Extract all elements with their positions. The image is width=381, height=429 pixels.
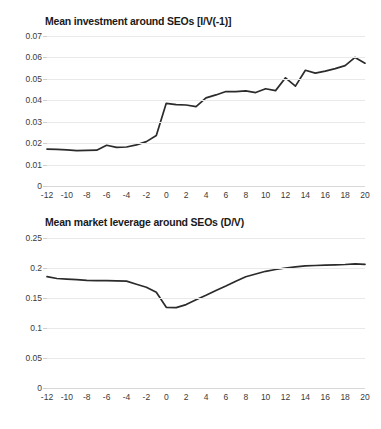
series-line-leverage <box>47 238 365 388</box>
y-tick-label: 0.06 <box>25 52 42 62</box>
x-tick-label: 16 <box>321 392 330 402</box>
gridline <box>47 36 365 37</box>
x-tick-label: 10 <box>261 392 270 402</box>
chart-title-leverage: Mean market leverage around SEOs (D/V) <box>45 216 244 228</box>
y-tick-mark <box>43 238 47 239</box>
chart-panel-leverage: Mean market leverage around SEOs (D/V) 0… <box>0 208 381 429</box>
x-tick-label: -4 <box>123 190 131 200</box>
x-tick-label: -4 <box>123 392 131 402</box>
series-line-investment <box>47 36 365 186</box>
x-tick-label: 4 <box>204 392 209 402</box>
gridline <box>47 268 365 269</box>
x-tick-label: -6 <box>103 190 111 200</box>
figure-container: Mean investment around SEOs [I/V(-1)] 00… <box>0 0 381 429</box>
x-tick-label: 20 <box>360 190 369 200</box>
y-tick-mark <box>43 165 47 166</box>
plot-area-leverage: 00.050.10.150.20.25 <box>47 238 365 388</box>
x-tick-label: 2 <box>184 190 189 200</box>
gridline <box>47 100 365 101</box>
x-tick-label: 12 <box>281 190 290 200</box>
y-tick-mark <box>43 79 47 80</box>
gridline <box>47 238 365 239</box>
y-tick-mark <box>43 328 47 329</box>
y-tick-label: 0.05 <box>25 353 42 363</box>
gridline <box>47 328 365 329</box>
x-tick-label: 2 <box>184 392 189 402</box>
x-tick-label: 8 <box>243 190 248 200</box>
y-tick-label: 0.15 <box>25 293 42 303</box>
y-tick-label: 0.01 <box>25 160 42 170</box>
y-tick-mark <box>43 143 47 144</box>
gridline <box>47 57 365 58</box>
x-tick-label: 8 <box>243 392 248 402</box>
x-tick-label: 0 <box>164 392 169 402</box>
x-tick-label: -12 <box>41 190 53 200</box>
y-tick-label: 0.04 <box>25 95 42 105</box>
y-tick-mark <box>43 298 47 299</box>
x-tick-label: -10 <box>61 392 73 402</box>
x-tick-label: 4 <box>204 190 209 200</box>
x-tick-label: -2 <box>143 190 151 200</box>
x-tick-label: 16 <box>321 190 330 200</box>
x-tick-label: 0 <box>164 190 169 200</box>
gridline <box>47 298 365 299</box>
x-tick-label: -8 <box>83 190 91 200</box>
x-tick-label: -6 <box>103 392 111 402</box>
y-tick-mark <box>43 36 47 37</box>
x-tick-label: 6 <box>224 392 229 402</box>
y-tick-mark <box>43 57 47 58</box>
x-tick-label: 20 <box>360 392 369 402</box>
y-tick-mark <box>43 358 47 359</box>
x-tick-label: -2 <box>143 392 151 402</box>
gridline <box>47 122 365 123</box>
x-tick-label: 10 <box>261 190 270 200</box>
y-tick-label: 0.1 <box>30 323 42 333</box>
y-tick-label: 0.03 <box>25 117 42 127</box>
gridline <box>47 358 365 359</box>
y-tick-label: 0.2 <box>30 263 42 273</box>
x-tick-label: -8 <box>83 392 91 402</box>
x-tick-label: 6 <box>224 190 229 200</box>
y-tick-mark <box>43 100 47 101</box>
y-tick-label: 0.07 <box>25 31 42 41</box>
x-tick-label: 14 <box>301 190 310 200</box>
gridline <box>47 79 365 80</box>
x-tick-label: 14 <box>301 392 310 402</box>
y-tick-label: 0.05 <box>25 74 42 84</box>
plot-wrap-investment: 00.010.020.030.040.050.060.07 <box>0 36 381 188</box>
y-tick-label: 0.25 <box>25 233 42 243</box>
x-tick-label: -12 <box>41 392 53 402</box>
y-tick-mark <box>43 268 47 269</box>
x-axis-investment: -12-10-8-6-4-202468101214161820 <box>47 186 365 204</box>
y-tick-label: 0.02 <box>25 138 42 148</box>
plot-wrap-leverage: 00.050.10.150.20.25 <box>0 238 381 390</box>
chart-panel-investment: Mean investment around SEOs [I/V(-1)] 00… <box>0 0 381 212</box>
y-tick-mark <box>43 122 47 123</box>
gridline <box>47 165 365 166</box>
x-tick-label: 12 <box>281 392 290 402</box>
x-tick-label: -10 <box>61 190 73 200</box>
gridline <box>47 143 365 144</box>
x-tick-label: 18 <box>340 190 349 200</box>
chart-title-investment: Mean investment around SEOs [I/V(-1)] <box>45 15 231 27</box>
plot-area-investment: 00.010.020.030.040.050.060.07 <box>47 36 365 186</box>
x-tick-label: 18 <box>340 392 349 402</box>
x-axis-leverage: -12-10-8-6-4-202468101214161820 <box>47 388 365 406</box>
